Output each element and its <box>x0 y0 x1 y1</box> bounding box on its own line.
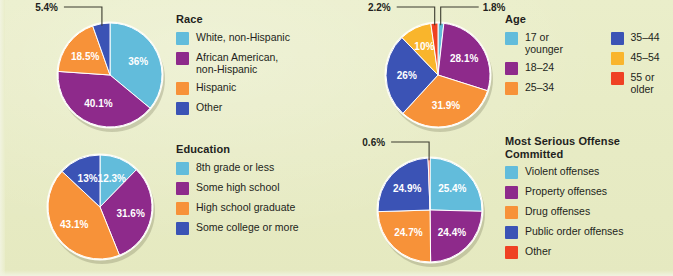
legend-swatch-icon <box>176 52 189 65</box>
legend-swatch-icon <box>176 102 189 115</box>
legend-item-education-2[interactable]: High school graduate <box>176 201 299 215</box>
pie-value-label: 31.9% <box>432 100 460 111</box>
legend-label: Violent offenses <box>525 165 599 177</box>
legend-label: African American, non-Hispanic <box>196 51 278 75</box>
legend-item-offense-0[interactable]: Violent offenses <box>505 165 623 179</box>
legend-label: 35–44 <box>631 31 660 43</box>
pie-value-label: 31.6% <box>116 208 144 219</box>
legend-item-race-0[interactable]: White, non-Hispanic <box>176 31 290 45</box>
legend-item-offense-1[interactable]: Property offenses <box>505 185 623 199</box>
legend-label: 17 or younger <box>525 31 581 55</box>
legend-offense: Most Serious Offense CommittedViolent of… <box>505 135 623 265</box>
callout-value-label: 0.6% <box>362 137 385 148</box>
pie-value-label: 28.1% <box>450 53 478 64</box>
legend-item-age-0[interactable]: 17 or younger <box>505 31 581 55</box>
callout-value-label: 5.4% <box>35 2 58 13</box>
pie-value-label: 10% <box>414 41 434 52</box>
legend-swatch-icon <box>611 32 624 45</box>
legend-label: Hispanic <box>196 81 236 93</box>
legend-item-race-2[interactable]: Hispanic <box>176 81 290 95</box>
legend-column: Violent offensesProperty offensesDrug of… <box>505 165 623 265</box>
pie-value-label: 24.4% <box>438 227 466 238</box>
pie-offense: 25.4%24.4%24.7%24.9%0.6% <box>362 137 485 268</box>
legend-item-education-1[interactable]: Some high school <box>176 181 299 195</box>
legend-label: 55 or older <box>631 71 673 95</box>
legend-label: Some college or more <box>196 221 299 233</box>
callout-value-label: 2.2% <box>368 2 391 13</box>
legend-columns: 8th grade or lessSome high schoolHigh sc… <box>176 161 299 241</box>
legend-item-race-3[interactable]: Other <box>176 101 290 115</box>
legend-label: 45–54 <box>631 51 660 63</box>
legend-item-offense-3[interactable]: Public order offenses <box>505 225 623 239</box>
legend-education: Education8th grade or lessSome high scho… <box>176 143 299 241</box>
pie-education: 12.3%31.6%43.1%13% <box>47 154 156 265</box>
legend-swatch-icon <box>505 32 518 45</box>
legend-item-age-5[interactable]: 55 or older <box>611 71 673 95</box>
pie-value-label: 18.5% <box>71 51 99 62</box>
legend-columns: Violent offensesProperty offensesDrug of… <box>505 165 623 265</box>
legend-label: High school graduate <box>196 201 295 213</box>
legend-swatch-icon <box>505 186 518 199</box>
legend-label: Other <box>525 245 551 257</box>
legend-item-age-1[interactable]: 18–24 <box>505 61 581 75</box>
legend-swatch-icon <box>176 82 189 95</box>
legend-swatch-icon <box>176 222 189 235</box>
pie-value-label: 36% <box>128 56 148 67</box>
legend-label: Drug offenses <box>525 205 590 217</box>
legend-title-age: Age <box>505 13 673 26</box>
legend-swatch-icon <box>176 32 189 45</box>
legend-swatch-icon <box>505 206 518 219</box>
legend-columns: 17 or younger18–2425–3435–4445–5455 or o… <box>505 31 673 101</box>
legend-race: RaceWhite, non-HispanicAfrican American,… <box>176 13 290 121</box>
legend-column: 8th grade or lessSome high schoolHigh sc… <box>176 161 299 241</box>
legend-item-age-4[interactable]: 45–54 <box>611 51 673 65</box>
legend-columns: White, non-HispanicAfrican American, non… <box>176 31 290 121</box>
legend-swatch-icon <box>611 72 624 85</box>
legend-swatch-icon <box>176 182 189 195</box>
legend-swatch-icon <box>176 162 189 175</box>
legend-title-education: Education <box>176 143 299 156</box>
legend-swatch-icon <box>505 226 518 239</box>
legend-swatch-icon <box>505 62 518 75</box>
legend-item-age-2[interactable]: 25–34 <box>505 81 581 95</box>
pie-value-label: 43.1% <box>60 219 88 230</box>
legend-item-education-0[interactable]: 8th grade or less <box>176 161 299 175</box>
legend-item-age-3[interactable]: 35–44 <box>611 31 673 45</box>
pie-value-label: 40.1% <box>84 98 112 109</box>
legend-label: Property offenses <box>525 185 607 197</box>
pie-value-label: 25.4% <box>438 183 466 194</box>
legend-swatch-icon <box>505 82 518 95</box>
legend-label: Some high school <box>196 181 279 193</box>
pie-value-label: 24.7% <box>394 227 422 238</box>
legend-item-education-3[interactable]: Some college or more <box>176 221 299 235</box>
legend-label: 8th grade or less <box>196 161 274 173</box>
pie-value-label: 26% <box>397 70 417 81</box>
legend-age: Age17 or younger18–2425–3435–4445–5455 o… <box>505 13 673 101</box>
legend-label: Other <box>196 101 222 113</box>
legend-column: 17 or younger18–2425–34 <box>505 31 581 101</box>
legend-label: White, non-Hispanic <box>196 31 290 43</box>
legend-column: White, non-HispanicAfrican American, non… <box>176 31 290 121</box>
legend-swatch-icon <box>176 202 189 215</box>
pie-race: 36%40.1%18.5%5.4% <box>35 2 165 133</box>
legend-item-race-1[interactable]: African American, non-Hispanic <box>176 51 290 75</box>
legend-column: 35–4445–5455 or older <box>611 31 673 101</box>
legend-item-offense-2[interactable]: Drug offenses <box>505 205 623 219</box>
pie-age: 28.1%31.9%26%10%2.2%1.8% <box>368 2 506 133</box>
pie-value-label: 12.3% <box>98 173 126 184</box>
legend-label: Public order offenses <box>525 225 623 237</box>
pie-value-label: 24.9% <box>393 183 421 194</box>
legend-swatch-icon <box>611 52 624 65</box>
legend-label: 18–24 <box>525 61 554 73</box>
legend-title-offense: Most Serious Offense Committed <box>505 135 623 160</box>
legend-label: 25–34 <box>525 81 554 93</box>
callout-value-label: 1.8% <box>483 2 506 13</box>
legend-swatch-icon <box>505 166 518 179</box>
legend-title-race: Race <box>176 13 290 26</box>
callout-leader-line <box>64 7 102 26</box>
legend-swatch-icon <box>505 246 518 259</box>
pie-value-label: 13% <box>78 173 98 184</box>
legend-item-offense-4[interactable]: Other <box>505 245 623 259</box>
